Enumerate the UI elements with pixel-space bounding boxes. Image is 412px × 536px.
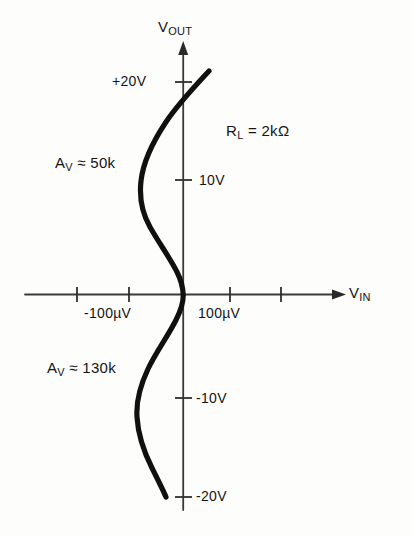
annotation-gain-lower: AV ≈ 130k — [47, 360, 116, 375]
y-axis-label-subscript: OUT — [168, 25, 192, 37]
y-axis-label: VOUT — [158, 19, 192, 34]
load-resistance-subscript: L — [237, 129, 243, 141]
annotation-gain-upper: AV ≈ 50k — [55, 155, 115, 170]
gain-lower-value: ≈ 130k — [65, 359, 116, 376]
x-tick-label-plus-100uv: 100µV — [198, 306, 240, 320]
y-axis-label-symbol: V — [158, 18, 168, 35]
gain-upper-value: ≈ 50k — [73, 154, 116, 171]
figure-canvas: VOUT VIN +20V 10V -10V -20V -100µV 100µV… — [0, 0, 412, 536]
gain-lower-symbol: A — [47, 359, 57, 376]
y-tick-label-minus-20v: -20V — [196, 489, 227, 503]
transfer-curve-plot — [0, 0, 412, 536]
y-tick-label-10v: 10V — [199, 173, 225, 187]
y-tick-label-plus-20v: +20V — [112, 74, 146, 88]
y-tick-label-minus-10v: -10V — [196, 391, 227, 405]
x-axis-arrow-icon — [332, 290, 346, 300]
annotation-load-resistance: RL = 2kΩ — [226, 123, 289, 138]
load-resistance-symbol: R — [226, 122, 237, 139]
transfer-characteristic-curve-path — [137, 71, 209, 497]
gain-upper-symbol: A — [55, 154, 65, 171]
load-resistance-value: = 2kΩ — [243, 122, 289, 139]
x-axis-label: VIN — [349, 285, 371, 300]
x-tick-label-minus-100uv: -100µV — [84, 306, 131, 320]
gain-lower-subscript: V — [57, 366, 65, 378]
x-axis-label-subscript: IN — [359, 291, 370, 303]
gain-upper-subscript: V — [65, 161, 73, 173]
x-axis-label-symbol: V — [349, 284, 359, 301]
y-axis-arrow-icon — [178, 41, 188, 55]
